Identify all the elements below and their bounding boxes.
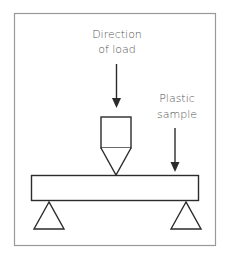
plastic-sample-beam: [32, 176, 199, 201]
three-point-bend-test-diagram: Direction of load Plastic sample: [0, 0, 227, 257]
load-label-line2: of load: [98, 43, 136, 56]
load-label-line1: Direction: [92, 28, 142, 41]
sample-label-line1: Plastic: [159, 92, 195, 105]
sample-label-line2: sample: [157, 108, 197, 121]
